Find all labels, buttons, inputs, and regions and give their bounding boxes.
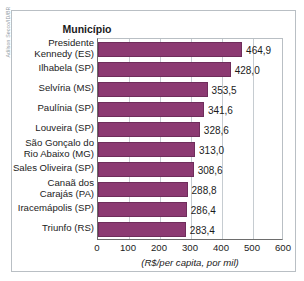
bar-value-label: 428,0 xyxy=(231,64,260,75)
bar-row[interactable]: 341,6 xyxy=(98,102,284,117)
bar[interactable] xyxy=(98,102,204,117)
category-column-header: Município xyxy=(48,23,126,35)
bar[interactable] xyxy=(98,62,231,77)
category-label: Ilhabela (SP) xyxy=(5,63,97,74)
category-label-line: Canaã dos xyxy=(5,178,94,189)
bar[interactable] xyxy=(98,182,188,197)
category-label-line: Kennedy (ES) xyxy=(5,49,94,60)
bar[interactable] xyxy=(98,222,186,237)
bar[interactable] xyxy=(98,42,242,57)
x-tick-label: 100 xyxy=(120,242,136,253)
bar-value-label: 288,8 xyxy=(188,184,217,195)
bar-value-label: 313,0 xyxy=(195,144,224,155)
bar[interactable] xyxy=(98,122,200,137)
bar-row[interactable]: 464,9 xyxy=(98,42,284,57)
bar-row[interactable]: 283,4 xyxy=(98,222,284,237)
plot-area: 464,9428,0353,5341,6328,6313,0308,6288,8… xyxy=(97,38,283,240)
category-label-line: Selvíria (MS) xyxy=(5,83,94,94)
x-tick-label: 500 xyxy=(244,242,260,253)
bar-row[interactable]: 286,4 xyxy=(98,202,284,217)
category-label-line: Sales Oliveira (SP) xyxy=(5,163,94,174)
category-label-line: São Gonçalo do xyxy=(5,138,94,149)
bar[interactable] xyxy=(98,142,195,157)
bar[interactable] xyxy=(98,202,187,217)
bar-value-label: 283,4 xyxy=(186,224,215,235)
x-tick-label: 600 xyxy=(275,242,291,253)
bar-value-label: 341,6 xyxy=(204,104,233,115)
bar[interactable] xyxy=(98,162,194,177)
x-tick-label: 300 xyxy=(182,242,198,253)
category-label-line: Presidente xyxy=(5,38,94,49)
bar-row[interactable]: 353,5 xyxy=(98,82,284,97)
category-label-line: Rio Abaixo (MG) xyxy=(5,149,94,160)
category-label-line: Ilhabela (SP) xyxy=(5,63,94,74)
category-label: São Gonçalo doRio Abaixo (MG) xyxy=(5,138,97,159)
x-axis-ticks: 0100200300400500600 xyxy=(97,242,283,256)
category-label: Selvíria (MS) xyxy=(5,83,97,94)
category-label-line: Louveira (SP) xyxy=(5,123,94,134)
bar-value-label: 353,5 xyxy=(208,84,237,95)
category-label: Sales Oliveira (SP) xyxy=(5,163,97,174)
bar[interactable] xyxy=(98,82,208,97)
category-label-line: Paulínia (SP) xyxy=(5,103,94,114)
bar-row[interactable]: 328,6 xyxy=(98,122,284,137)
bar-row[interactable]: 428,0 xyxy=(98,62,284,77)
bar-value-label: 464,9 xyxy=(242,44,271,55)
category-label: Louveira (SP) xyxy=(5,123,97,134)
bar-value-label: 286,4 xyxy=(187,204,216,215)
bar-value-label: 308,6 xyxy=(194,164,223,175)
x-tick-label: 200 xyxy=(151,242,167,253)
x-tick-label: 0 xyxy=(94,242,99,253)
category-label-line: Triunfo (RS) xyxy=(5,223,94,234)
bar-value-label: 328,6 xyxy=(200,124,229,135)
category-label: Iracemápolis (SP) xyxy=(5,203,97,214)
category-label-line: Iracemápolis (SP) xyxy=(5,203,94,214)
bar-row[interactable]: 288,8 xyxy=(98,182,284,197)
category-label: PresidenteKennedy (ES) xyxy=(5,38,97,59)
category-label: Triunfo (RS) xyxy=(5,223,97,234)
x-tick-label: 400 xyxy=(213,242,229,253)
category-label: Canaã dosCarajás (PA) xyxy=(5,178,97,199)
category-label: Paulínia (SP) xyxy=(5,103,97,114)
bar-row[interactable]: 313,0 xyxy=(98,142,284,157)
category-labels-column: PresidenteKennedy (ES)Ilhabela (SP)Selví… xyxy=(0,38,97,240)
x-axis-title: (R$/per capita, por mil) xyxy=(97,257,283,268)
category-label-line: Carajás (PA) xyxy=(5,189,94,200)
bar-row[interactable]: 308,6 xyxy=(98,162,284,177)
